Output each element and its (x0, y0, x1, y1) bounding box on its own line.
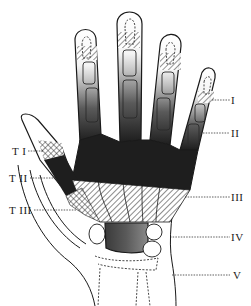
zone-label-IV: IV (231, 232, 244, 243)
middle-finger (117, 12, 142, 142)
thumb-zone-label-TII: T II (9, 173, 28, 184)
zone-label-I: I (231, 95, 235, 106)
fingers (75, 12, 215, 150)
zone-label-V: V (233, 270, 241, 281)
little-finger (180, 68, 215, 150)
distal-phalanges (82, 19, 211, 94)
thumb-zone-label-TIII: T III (9, 205, 32, 216)
thumb (21, 114, 82, 196)
zone-IV-carpals (105, 223, 148, 253)
hand-diagram (0, 0, 251, 306)
zone-label-III: III (231, 192, 244, 203)
radius-ulna (95, 256, 158, 306)
thumb-zone-label-TI: T I (12, 146, 26, 157)
zone-label-II: II (231, 128, 239, 139)
ring-finger (150, 34, 181, 145)
